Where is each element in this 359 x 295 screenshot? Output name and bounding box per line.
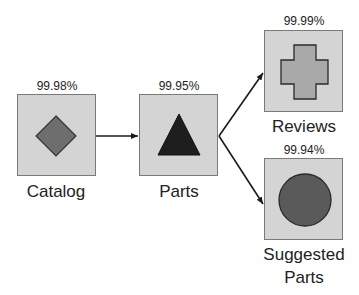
triangle-icon xyxy=(139,94,218,176)
availability-suggested-parts: 99.94% xyxy=(259,143,349,157)
availability-catalog: 99.98% xyxy=(12,79,102,93)
label-reviews: Reviews xyxy=(249,116,359,138)
label-parts: Parts xyxy=(124,181,234,203)
label-suggested-line2: Parts xyxy=(249,267,359,289)
parts-box xyxy=(139,94,218,176)
suggested-parts-box xyxy=(264,158,343,240)
reviews-box xyxy=(264,30,343,112)
availability-parts: 99.95% xyxy=(134,79,224,93)
cross-icon xyxy=(264,30,344,112)
catalog-box xyxy=(17,94,96,176)
label-catalog: Catalog xyxy=(1,181,111,203)
availability-reviews: 99.99% xyxy=(259,14,349,28)
label-suggested-line1: Suggested xyxy=(249,244,359,266)
circle-icon xyxy=(264,158,344,240)
diamond-icon xyxy=(17,94,96,176)
